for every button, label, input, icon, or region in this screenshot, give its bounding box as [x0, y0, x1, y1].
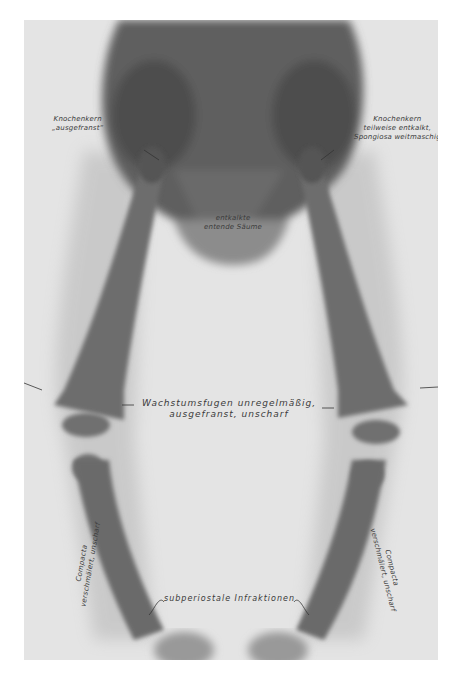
annotation-pelvis: entkalkte entende Säume [204, 214, 262, 232]
annotation-line: Knochenkern [52, 115, 103, 124]
annotation-line: ausgefranst, unscharf [142, 409, 316, 420]
annotation-line: Spongiosa weitmaschig [354, 133, 438, 142]
xray-plate: Knochenkern „ausgefranst“ Knochenkern te… [24, 20, 438, 660]
annotation-line: Knochenkern [354, 115, 438, 124]
annotation-line: entende Säume [204, 223, 262, 232]
annotation-line: entkalkte [204, 214, 262, 223]
annotation-left-hip: Knochenkern „ausgefranst“ [52, 115, 103, 133]
annotation-infractions: subperiostale Infraktionen [164, 593, 295, 604]
annotation-line: teilweise entkalkt, [354, 124, 438, 133]
annotation-right-hip: Knochenkern teilweise entkalkt, Spongios… [354, 115, 438, 142]
annotation-growth-plates: Wachstumsfugen unregelmäßig, ausgefranst… [142, 398, 316, 420]
annotation-line: Wachstumsfugen unregelmäßig, [142, 398, 316, 409]
annotation-line: „ausgefranst“ [52, 124, 103, 133]
